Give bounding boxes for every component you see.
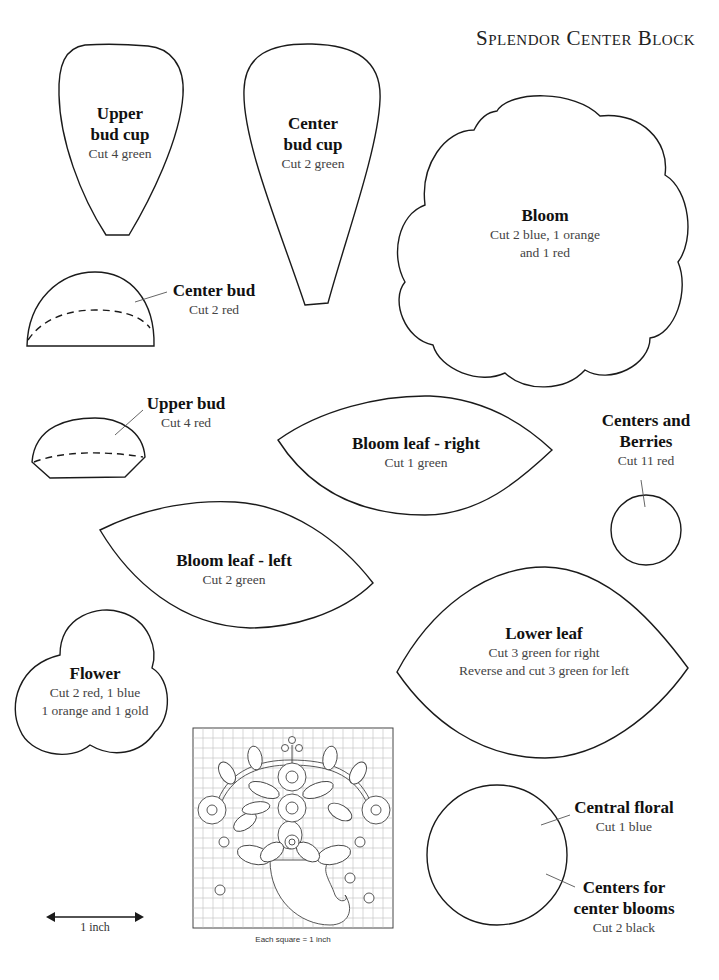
bloom-leaf-right-cut: Cut 1 green	[352, 454, 480, 472]
centers-and-berries-name-line1: Centers and	[602, 410, 690, 431]
upper-bud-name: Upper bud	[147, 393, 226, 414]
upper-bud-cup-cut: Cut 4 green	[89, 145, 152, 163]
flower-cut-line2: 1 orange and 1 gold	[41, 702, 148, 720]
flower-label: Flower Cut 2 red, 1 blue 1 orange and 1 …	[41, 663, 148, 720]
center-bud-cup-cut: Cut 2 green	[282, 155, 345, 173]
upper-bud-fold-line	[34, 453, 143, 462]
bloom-cut-line2: and 1 red	[490, 244, 600, 262]
center-bud-fold-line	[28, 310, 150, 340]
bloom-leaf-left-label: Bloom leaf - left Cut 2 green	[176, 550, 292, 589]
lower-leaf-cut-line2: Reverse and cut 3 green for left	[459, 662, 629, 680]
centers-for-center-blooms-label: Centers for center blooms Cut 2 black	[573, 877, 674, 937]
scale-arrow-right-icon	[135, 912, 144, 922]
centers-and-berries-name-line2: Berries	[602, 431, 690, 452]
centers-and-berries-shape	[611, 495, 681, 565]
lower-leaf-cut-line1: Cut 3 green for right	[459, 644, 629, 662]
upper-bud-cup-label: Upper bud cup Cut 4 green	[89, 103, 152, 163]
center-bud-label: Center bud Cut 2 red	[173, 280, 255, 319]
bloom-leaf-right-name: Bloom leaf - right	[352, 433, 480, 454]
center-bud-cup-label: Center bud cup Cut 2 green	[282, 113, 345, 173]
center-blooms-cut: Cut 2 black	[573, 919, 674, 937]
center-bud-cup-shape	[244, 44, 380, 305]
scale-bar-label: 1 inch	[80, 920, 110, 935]
centers-berries-leader	[641, 480, 645, 507]
center-bud-shape	[27, 272, 154, 346]
lower-leaf-name: Lower leaf	[459, 623, 629, 644]
bloom-label: Bloom Cut 2 blue, 1 orange and 1 red	[490, 205, 600, 262]
scale-arrow-left-icon	[46, 912, 55, 922]
bloom-cut-line1: Cut 2 blue, 1 orange	[490, 226, 600, 244]
layout-diagram	[193, 728, 393, 928]
bloom-leaf-left-name: Bloom leaf - left	[176, 550, 292, 571]
upper-bud-cup-name-line1: Upper	[89, 103, 152, 124]
centers-and-berries-label: Centers and Berries Cut 11 red	[602, 410, 690, 470]
central-floral-label: Central floral Cut 1 blue	[574, 797, 674, 836]
center-blooms-name-line2: center blooms	[573, 898, 674, 919]
upper-bud-label: Upper bud Cut 4 red	[147, 393, 226, 432]
centers-and-berries-cut: Cut 11 red	[602, 452, 690, 470]
bloom-leaf-left-cut: Cut 2 green	[176, 571, 292, 589]
center-bud-cup-name-line2: bud cup	[282, 134, 345, 155]
upper-bud-shape	[32, 418, 145, 478]
flower-cut-line1: Cut 2 red, 1 blue	[41, 684, 148, 702]
layout-diagram-caption: Each square = 1 inch	[255, 935, 330, 944]
lower-leaf-label: Lower leaf Cut 3 green for right Reverse…	[459, 623, 629, 680]
central-floral-name: Central floral	[574, 797, 674, 818]
flower-name: Flower	[41, 663, 148, 684]
central-floral-shape	[427, 785, 567, 925]
center-bud-name: Center bud	[173, 280, 255, 301]
center-blooms-name-line1: Centers for	[573, 877, 674, 898]
upper-bud-cut: Cut 4 red	[147, 414, 226, 432]
center-bud-cut: Cut 2 red	[173, 301, 255, 319]
central-floral-cut: Cut 1 blue	[574, 818, 674, 836]
center-bud-cup-name-line1: Center	[282, 113, 345, 134]
bloom-name: Bloom	[490, 205, 600, 226]
bloom-leaf-right-label: Bloom leaf - right Cut 1 green	[352, 433, 480, 472]
upper-bud-cup-name-line2: bud cup	[89, 124, 152, 145]
